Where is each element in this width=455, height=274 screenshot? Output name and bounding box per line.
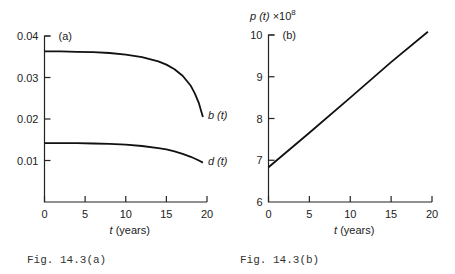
y-tick-label: 10 [250, 29, 262, 41]
x-tick-label: 15 [385, 208, 397, 220]
series-label-bt: b (t) [208, 109, 228, 121]
x-tick-label: 20 [201, 208, 213, 220]
y-ticks-a: 0.010.020.030.04 [17, 30, 50, 167]
x-ticks-b: 05101520 [265, 196, 438, 220]
panel-label-b: (b) [283, 29, 296, 41]
figure-caption-b: Fig. 14.3(b) [240, 254, 319, 266]
y-tick-label: 0.04 [17, 30, 38, 42]
chart-panel-a: 05101520 0.010.020.030.04 b (t)d (t) (a)… [17, 30, 228, 266]
y-tick-label: 7 [256, 154, 262, 166]
y-tick-label: 0.03 [17, 72, 38, 84]
x-tick-label: 0 [265, 208, 271, 220]
y-tick-label: 9 [256, 71, 262, 83]
y-axis-label-b: p (t) ×108 [249, 8, 296, 22]
x-tick-label: 10 [120, 208, 132, 220]
figure-canvas: 05101520 0.010.020.030.04 b (t)d (t) (a)… [0, 0, 455, 274]
x-tick-label: 0 [41, 208, 47, 220]
y-tick-label: 0.01 [17, 155, 38, 167]
panel-label-a: (a) [59, 30, 72, 42]
series-group-a: b (t)d (t) [45, 51, 228, 166]
axes-frame-a [45, 36, 208, 202]
y-tick-label: 8 [256, 113, 262, 125]
y-ticks-b: 678910 [250, 29, 274, 208]
x-axis-label-b: t (years) [334, 224, 374, 236]
x-tick-label: 20 [426, 208, 438, 220]
series-line-pt [269, 32, 428, 168]
x-axis-label-a: t (years) [110, 224, 150, 236]
y-tick-label: 6 [256, 196, 262, 208]
x-tick-label: 15 [160, 208, 172, 220]
x-tick-label: 10 [344, 208, 356, 220]
y-tick-label: 0.02 [17, 113, 38, 125]
figure-caption-a: Fig. 14.3(a) [27, 254, 106, 266]
x-ticks-a: 05101520 [41, 196, 213, 220]
series-line-dt [45, 143, 203, 163]
x-tick-label: 5 [306, 208, 312, 220]
axes-frame-b [269, 35, 433, 202]
series-label-dt: d (t) [208, 155, 228, 167]
x-tick-label: 5 [82, 208, 88, 220]
chart-panel-b: 05101520 678910 (b) t (years) p (t) ×108… [240, 8, 438, 266]
series-group-b [269, 32, 428, 168]
series-line-bt [45, 51, 203, 117]
